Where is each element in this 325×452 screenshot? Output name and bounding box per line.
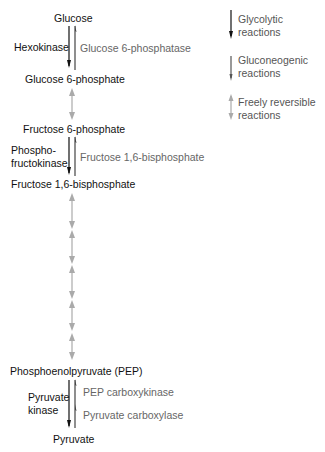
enzyme-hexokinase: Hexokinase — [14, 41, 69, 53]
reversible-arrow — [69, 88, 75, 120]
reversible-chain — [69, 193, 75, 360]
pyruvate-kinase-arrow — [67, 380, 71, 428]
legend-reversible-arrow — [229, 94, 234, 120]
enzyme-fructose-bisphosphatase: Fructose 1,6-bisphosphate — [80, 151, 204, 163]
enzyme-pyruvate-kinase-line1: Pyruvate — [28, 391, 69, 403]
legend-reversible-line1: Freely reversible — [238, 96, 316, 109]
enzyme-pfk-line2: fructokinase — [11, 157, 68, 169]
g6pase-arrow — [75, 25, 77, 70]
legend-reversible-line2: reactions — [238, 109, 281, 122]
metabolite-fructose-1-6-bisphosphate: Fructose 1,6-bisphosphate — [11, 178, 135, 190]
enzyme-pep-carboxykinase: PEP carboxykinase — [83, 386, 174, 398]
legend-glycolytic-line2: reactions — [238, 26, 281, 39]
enzyme-pyruvate-carboxylase: Pyruvate carboxylase — [83, 409, 183, 421]
legend-gluconeogenic-line2: reactions — [238, 67, 281, 80]
metabolite-pyruvate: Pyruvate — [53, 433, 94, 445]
enzyme-pfk-line1: Phospho- — [11, 144, 56, 156]
metabolite-pep: Phosphoenolpyruvate (PEP) — [10, 365, 143, 377]
metabolite-glucose-6-phosphate: Glucose 6-phosphate — [25, 73, 125, 85]
legend-glycolytic-arrow — [229, 10, 233, 39]
enzyme-pyruvate-kinase-line2: kinase — [28, 404, 58, 416]
gluconeogenic-bypass-arrow — [75, 379, 77, 428]
pfk-arrow — [67, 137, 71, 175]
enzyme-glucose-6-phosphatase: Glucose 6-phosphatase — [80, 42, 191, 54]
legend-gluconeogenic-line1: Gluconeogenic — [238, 54, 308, 67]
legend-glycolytic-line1: Glycolytic — [238, 13, 283, 26]
metabolite-fructose-6-phosphate: Fructose 6-phosphate — [23, 123, 125, 135]
fbpase-arrow — [75, 136, 77, 176]
metabolite-glucose: Glucose — [54, 12, 93, 24]
legend-gluconeogenic-arrow — [230, 56, 233, 81]
